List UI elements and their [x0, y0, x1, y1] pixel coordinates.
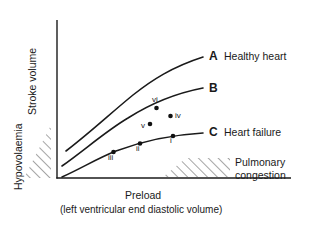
data-point-v[interactable]	[148, 122, 153, 127]
curve-b	[62, 88, 203, 166]
x-axis-title: Preload	[125, 190, 161, 201]
y-axis-title: Stroke volume	[27, 48, 38, 115]
data-point-iv[interactable]	[168, 114, 173, 119]
curve-a-healthy-heart	[66, 57, 203, 151]
curve-label-b: B	[209, 82, 218, 94]
point-label-vi: vi	[152, 96, 158, 104]
point-label-ii: ii	[136, 145, 140, 153]
curve-caption-c: Heart failure	[224, 127, 281, 138]
pulmonary-congestion-label-line2: congestion	[235, 170, 286, 181]
curve-label-c: C	[209, 126, 218, 138]
point-label-v: v	[141, 122, 145, 130]
hypovolaemia-hatch-region	[20, 120, 56, 180]
annotated-points	[111, 106, 175, 155]
frank-starling-diagram: A Healthy heart B C Heart failure i ii i…	[0, 0, 311, 226]
x-axis-subtitle: (left ventricular end diastolic volume)	[60, 205, 222, 215]
pulmonary-congestion-hatch-region	[160, 155, 234, 180]
point-label-iii: iii	[108, 154, 113, 162]
pulmonary-congestion-label-line1: Pulmonary	[235, 157, 285, 168]
data-point-vi[interactable]	[154, 106, 159, 111]
hypovolaemia-label: Hypovolaemia	[13, 123, 24, 190]
curve-caption-a: Healthy heart	[224, 51, 286, 62]
curve-label-a: A	[209, 50, 218, 62]
point-label-i: i	[170, 137, 172, 145]
axis-lines	[56, 20, 291, 179]
point-label-iv: iv	[175, 112, 181, 120]
